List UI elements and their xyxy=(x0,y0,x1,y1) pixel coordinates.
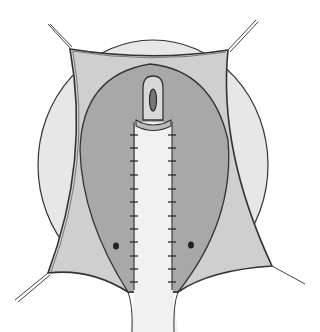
dot-left xyxy=(113,243,119,250)
illustration-canvas xyxy=(0,0,320,332)
surgical-illustration xyxy=(0,0,320,332)
dot-right xyxy=(188,242,194,249)
central-closed-strip xyxy=(130,122,178,332)
